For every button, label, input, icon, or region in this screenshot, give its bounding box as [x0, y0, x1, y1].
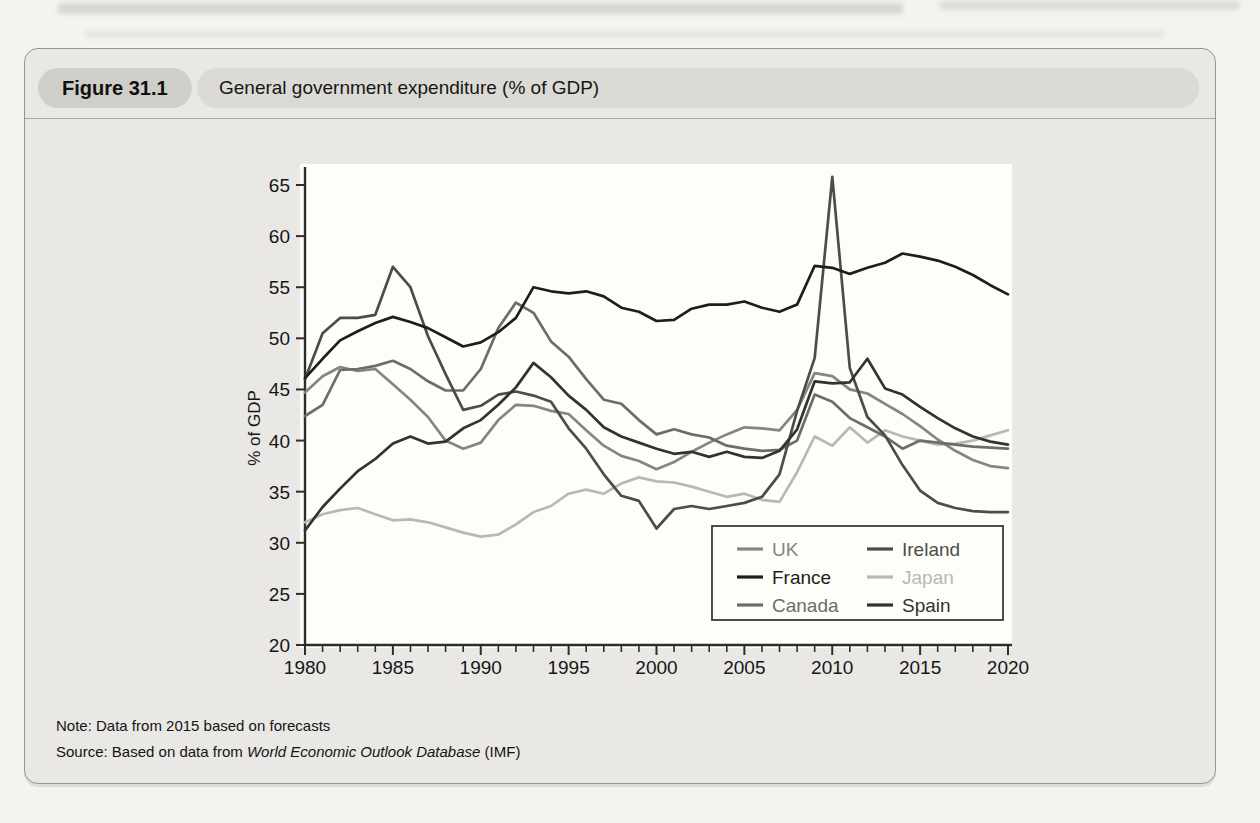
figure-number-label: Figure 31.1 [38, 68, 192, 108]
figure-note: Note: Data from 2015 based on forecasts [56, 717, 330, 734]
source-prefix: Source: Based on data from [56, 743, 247, 760]
header-divider [25, 118, 1215, 119]
figure-box: Figure 31.1 General government expenditu… [24, 48, 1216, 784]
source-suffix: (IMF) [480, 743, 520, 760]
bleed-text-artifact [58, 3, 903, 14]
figure-source: Source: Based on data from World Economi… [56, 743, 520, 760]
figure-header: Figure 31.1 General government expenditu… [25, 49, 1215, 118]
bleed-text-artifact [85, 31, 1165, 38]
source-title-italic: World Economic Outlook Database [247, 743, 480, 760]
figure-title: General government expenditure (% of GDP… [197, 68, 1199, 108]
bleed-text-artifact [940, 1, 1240, 10]
